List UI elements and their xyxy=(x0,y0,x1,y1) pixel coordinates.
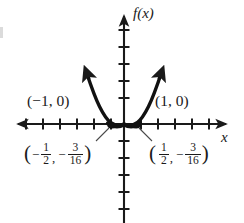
paren-open: ( xyxy=(24,143,31,164)
x-fraction: 1 2 xyxy=(41,142,51,167)
y-fraction: 3 16 xyxy=(185,142,201,167)
minimum-point-right xyxy=(131,123,140,129)
x-axis-label: x xyxy=(221,130,228,145)
minimum-label-left: ( − 1 2 , − 3 16 ) xyxy=(24,142,91,167)
y-axis-label: f(x) xyxy=(133,6,154,21)
coordinate-plane xyxy=(0,0,244,223)
x-intercept-label-right: (1, 0) xyxy=(155,93,189,109)
x-sign: − xyxy=(31,148,40,161)
paren-close: ) xyxy=(84,143,91,164)
y-fraction: 3 16 xyxy=(68,142,84,167)
x-fraction: 1 2 xyxy=(159,142,169,167)
x-numerator: 1 xyxy=(159,142,169,154)
x-denominator: 2 xyxy=(41,155,51,167)
curve-arrow-right xyxy=(159,70,163,80)
curve-arrow-left xyxy=(86,70,90,80)
x-numerator: 1 xyxy=(41,142,51,154)
comma: , xyxy=(170,151,175,164)
x-intercept-label-left: (−1, 0) xyxy=(27,93,69,109)
y-numerator: 3 xyxy=(188,142,198,154)
y-denominator: 16 xyxy=(68,155,84,167)
function-graph-figure: f(x) x (−1, 0) (1, 0) ( − 1 2 , − 3 16 )… xyxy=(0,0,244,223)
leader-line-right xyxy=(139,128,152,141)
minimum-point-left xyxy=(107,123,116,129)
minimum-label-right: ( 1 2 , − 3 16 ) xyxy=(149,142,209,167)
y-sign: − xyxy=(57,148,66,161)
comma: , xyxy=(52,151,57,164)
paren-close: ) xyxy=(202,143,209,164)
leader-line-left xyxy=(96,128,109,141)
y-denominator: 16 xyxy=(185,155,201,167)
y-numerator: 3 xyxy=(71,142,81,154)
y-sign: − xyxy=(175,148,184,161)
x-denominator: 2 xyxy=(159,155,169,167)
paren-open: ( xyxy=(149,143,156,164)
